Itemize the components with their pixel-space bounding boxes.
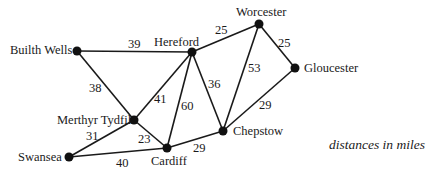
edge-hereford-chepstow — [192, 52, 223, 131]
node-swansea — [65, 153, 74, 162]
weight-builth-hereford: 39 — [128, 38, 141, 51]
node-worcester — [255, 20, 264, 29]
weight-hereford-worcester: 25 — [215, 24, 228, 37]
label-chepstow: Chepstow — [233, 125, 283, 138]
network-graph — [0, 0, 428, 182]
label-cardiff: Cardiff — [151, 155, 187, 168]
weight-worcester-gloucester: 25 — [278, 37, 291, 50]
weight-hereford-merthyr: 41 — [154, 93, 167, 106]
edge-builth-merthyr — [77, 51, 134, 120]
weight-hereford-chepstow: 36 — [208, 78, 221, 91]
label-hereford: Hereford — [154, 36, 199, 49]
weight-worcester-chepstow: 53 — [248, 62, 261, 75]
weight-builth-merthyr: 38 — [89, 82, 102, 95]
node-cardiff — [163, 144, 172, 153]
weight-merthyr-cardiff: 23 — [138, 133, 151, 146]
weight-swansea-cardiff: 40 — [116, 157, 129, 170]
weight-merthyr-swansea: 31 — [86, 130, 99, 143]
label-swansea: Swansea — [18, 151, 62, 164]
weight-cardiff-chepstow: 29 — [193, 142, 206, 155]
node-gloucester — [291, 64, 300, 73]
node-builth-wells — [73, 47, 82, 56]
label-merthyr-tydfil: Merthyr Tydfil — [57, 114, 131, 127]
weight-hereford-cardiff: 60 — [181, 100, 194, 113]
label-worcester: Worcester — [236, 6, 286, 19]
weight-gloucester-chepstow: 29 — [259, 99, 272, 112]
node-chepstow — [219, 127, 228, 136]
label-builth-wells: Builth Wells — [10, 44, 72, 57]
label-gloucester: Gloucester — [304, 62, 358, 75]
distances-note: distances in miles — [329, 138, 425, 152]
